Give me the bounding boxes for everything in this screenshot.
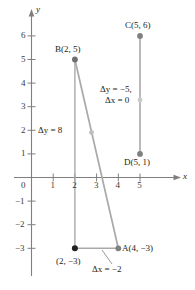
point-label-C: C(5, 6) — [125, 20, 151, 30]
tick-label-y-5: 5 — [21, 54, 26, 64]
midpoint-marker-BA — [89, 130, 94, 135]
x-axis-label: x — [183, 171, 187, 181]
tick-label-y-neg2: −2 — [15, 219, 25, 229]
tick-label-y-2: 2 — [21, 125, 26, 135]
tick-label-y-4: 4 — [21, 78, 26, 88]
tick-label-y-3: 3 — [21, 101, 26, 111]
point-A-marker — [115, 245, 121, 251]
tick-label-x-2: 2 — [72, 180, 77, 190]
tick-label-x-4: 4 — [116, 180, 121, 190]
y-axis — [29, 9, 35, 276]
coordinate-plane-figure: y x 0 1 2 3 4 5 1 2 3 4 5 6 −1 −2 −3 C(5… — [0, 0, 195, 290]
annotation-delta-x-0: Δx = 0 — [105, 95, 129, 105]
tick-label-x-3: 3 — [94, 180, 99, 190]
tick-label-y-neg1: −1 — [15, 196, 25, 206]
y-axis-label: y — [36, 4, 40, 14]
annotation-delta-y-neg5: Δy = −5, — [100, 84, 132, 94]
point-label-D: D(5, 1) — [124, 157, 150, 167]
tick-label-y-neg3: −3 — [15, 243, 25, 253]
annotation-delta-y-8: Δy = 8 — [38, 125, 62, 135]
point-label-B: B(2, 5) — [55, 44, 81, 54]
tick-label-x-1: 1 — [51, 180, 56, 190]
tick-label-y-6: 6 — [21, 30, 26, 40]
annotation-delta-x-neg2: Δx = −2 — [92, 264, 121, 274]
plot-canvas — [0, 0, 195, 290]
point-label-A: A(4, −3) — [122, 243, 153, 253]
midpoint-marker-CD — [138, 98, 143, 103]
point-label-corner: (2, −3) — [56, 256, 81, 266]
point-B-marker — [72, 57, 78, 63]
point-C-marker — [137, 33, 143, 39]
point-corner-marker — [72, 245, 78, 251]
tick-label-y-1: 1 — [21, 148, 26, 158]
point-D-marker — [137, 151, 143, 157]
leader-line-delta-x — [102, 250, 112, 264]
tick-label-origin: 0 — [21, 180, 26, 190]
tick-label-x-5: 5 — [137, 180, 142, 190]
